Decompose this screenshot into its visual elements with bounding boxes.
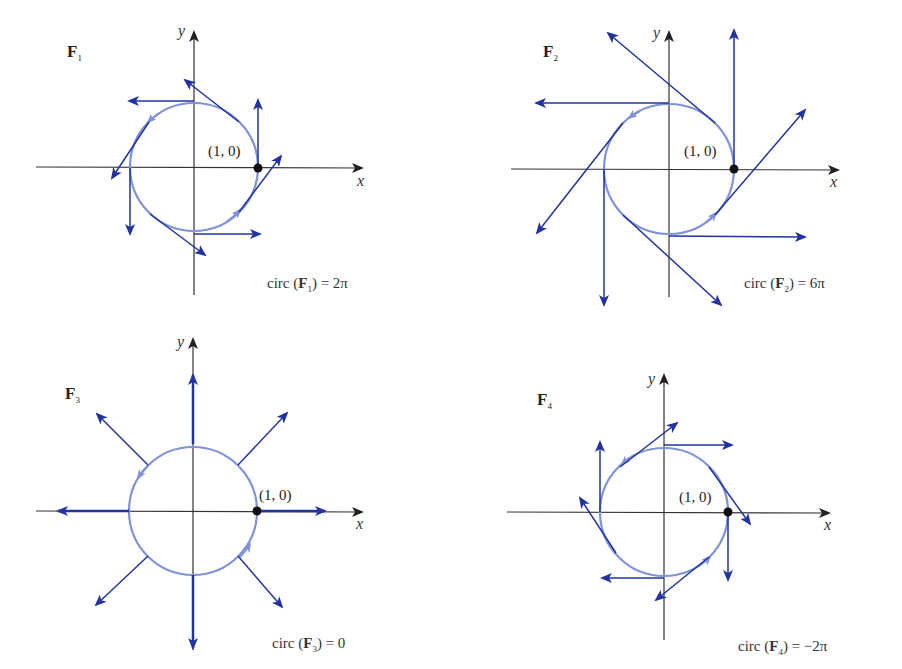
x-axis-label: x bbox=[357, 172, 364, 190]
circle-direction-arrow bbox=[622, 455, 634, 464]
point-label: (1, 0) bbox=[679, 489, 712, 506]
circle-direction-arrow bbox=[148, 113, 160, 122]
field-label-f1: F1 bbox=[67, 42, 82, 63]
panel-f2 bbox=[511, 30, 838, 305]
circulation-label-f2: circ (F2) = 6π bbox=[744, 275, 825, 294]
x-axis-label: x bbox=[830, 173, 837, 191]
x-axis-label: x bbox=[824, 516, 831, 534]
field-label-f3: F3 bbox=[65, 384, 80, 405]
point-1-0 bbox=[253, 507, 262, 516]
circle-direction-arrow bbox=[226, 210, 240, 222]
y-axis-label: y bbox=[653, 24, 660, 42]
point-label: (1, 0) bbox=[259, 487, 292, 504]
vector-field-diagram bbox=[0, 0, 902, 669]
circulation-label-f4: circ (F4) = −2π bbox=[738, 638, 827, 657]
vector-arrows bbox=[536, 30, 805, 305]
x-axis bbox=[36, 167, 362, 168]
point-label: (1, 0) bbox=[208, 143, 241, 160]
point-1-0 bbox=[254, 164, 263, 173]
field-label-f2: F2 bbox=[543, 42, 558, 63]
x-axis bbox=[511, 169, 838, 170]
circulation-label-f3: circ (F3) = 0 bbox=[272, 635, 345, 654]
field-label-f4: F4 bbox=[537, 390, 552, 411]
circle-direction-arrow bbox=[138, 466, 148, 478]
point-1-0 bbox=[724, 508, 733, 517]
y-axis-label: y bbox=[178, 22, 185, 40]
circle-direction-arrow bbox=[240, 544, 250, 557]
point-label: (1, 0) bbox=[684, 143, 717, 160]
panel-f1 bbox=[36, 32, 362, 295]
panel-f3 bbox=[36, 339, 362, 650]
y-axis-label: y bbox=[648, 370, 655, 388]
circulation-label-f1: circ (F1) = 2π bbox=[267, 275, 348, 294]
point-1-0 bbox=[730, 165, 739, 174]
y-axis-label: y bbox=[177, 333, 184, 351]
circle-direction-arrow bbox=[629, 111, 640, 118]
circle-direction-arrow bbox=[705, 213, 716, 223]
x-axis-label: x bbox=[356, 515, 363, 533]
x-axis bbox=[507, 512, 829, 513]
panel-f4 bbox=[507, 375, 829, 640]
